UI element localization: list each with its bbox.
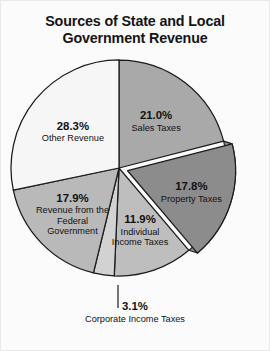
chart-title-line-1: Sources of State and Local [1,13,269,30]
pie-chart-svg: 21.0%Sales Taxes17.8%Property Taxes11.9%… [1,53,270,315]
chart-title: Sources of State and Local Government Re… [1,13,269,47]
chart-title-line-2: Government Revenue [1,30,269,47]
corporate-income-taxes-percent: 3.1% [1,301,269,313]
corporate-income-taxes-label: 3.1% Corporate Income Taxes [1,301,269,325]
chart-page: Sources of State and Local Government Re… [0,0,270,351]
pie-chart: 21.0%Sales Taxes17.8%Property Taxes11.9%… [1,53,270,315]
corporate-income-taxes-name: Corporate Income Taxes [1,314,269,326]
